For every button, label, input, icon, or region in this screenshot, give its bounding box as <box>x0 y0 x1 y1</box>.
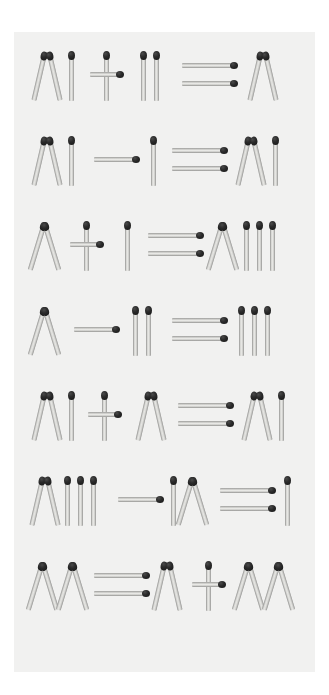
matchstick <box>189 476 210 526</box>
matchstick <box>68 136 75 186</box>
matchstick <box>64 476 71 526</box>
operator-equals <box>148 214 204 280</box>
matchstick <box>172 165 228 172</box>
operator-plus <box>88 384 126 450</box>
matchstick <box>30 51 48 101</box>
matchstick <box>165 561 183 611</box>
operator-equals <box>182 44 238 110</box>
puzzle-row <box>14 299 315 365</box>
matchstick <box>178 402 234 409</box>
matchstick <box>28 476 46 526</box>
matchstick <box>41 221 62 271</box>
matchstick <box>256 221 263 271</box>
puzzle-row <box>14 554 315 620</box>
matchstick <box>172 317 228 324</box>
matchstick <box>94 590 150 597</box>
numeral-XIII <box>212 214 292 280</box>
puzzle-row <box>14 214 315 280</box>
matchstick <box>74 326 120 333</box>
matchstick <box>275 561 296 611</box>
matchstick <box>90 71 124 78</box>
matchstick <box>145 306 152 356</box>
matchstick <box>261 51 279 101</box>
operator-plus <box>192 554 230 620</box>
numeral-VI <box>36 384 88 450</box>
matchstick <box>140 51 147 101</box>
matchstick <box>234 136 252 186</box>
matchstick <box>219 221 240 271</box>
matchstick <box>172 335 228 342</box>
matchstick <box>284 476 291 526</box>
numeral-II <box>140 44 170 110</box>
matchstick <box>88 411 122 418</box>
matchstick <box>269 221 276 271</box>
matchstick <box>172 147 228 154</box>
matchstick <box>192 581 226 588</box>
matchstick <box>94 572 150 579</box>
matchstick <box>45 391 63 441</box>
matchstick <box>178 420 234 427</box>
puzzle-row <box>14 469 315 535</box>
matchstick <box>148 232 204 239</box>
operator-minus <box>94 129 140 195</box>
matchstick <box>182 62 238 69</box>
matchstick <box>70 241 104 248</box>
numeral-X <box>34 214 66 280</box>
matchstick <box>264 306 271 356</box>
numeral-VI <box>36 44 88 110</box>
numeral-V <box>252 44 276 110</box>
matchstick <box>251 306 258 356</box>
matchstick <box>30 391 48 441</box>
numeral-X <box>34 299 66 365</box>
numeral-II <box>132 299 162 365</box>
operator-equals <box>178 384 234 450</box>
matchstick <box>68 391 75 441</box>
matchstick <box>148 250 204 257</box>
matchstick <box>243 221 250 271</box>
operator-plus <box>70 214 108 280</box>
operator-minus <box>118 469 164 535</box>
matchstick <box>150 561 168 611</box>
matchstick <box>94 156 140 163</box>
matchstick <box>220 505 276 512</box>
numeral-VI <box>240 129 292 195</box>
numeral-V <box>156 554 180 620</box>
matchstick <box>278 391 285 441</box>
numeral-VI <box>36 129 88 195</box>
matchstick <box>90 476 97 526</box>
matchstick <box>45 136 63 186</box>
matchstick <box>124 221 131 271</box>
puzzle-row <box>14 129 315 195</box>
numeral-I <box>150 129 164 195</box>
operator-plus <box>90 44 128 110</box>
matchstick <box>77 476 84 526</box>
puzzle-row <box>14 44 315 110</box>
matchstick <box>255 391 273 441</box>
operator-equals <box>172 299 228 365</box>
numeral-III <box>238 299 282 365</box>
puzzle-paper-panel <box>14 32 315 672</box>
matchstick <box>41 306 62 356</box>
matchstick <box>132 306 139 356</box>
operator-equals <box>94 554 150 620</box>
matchstick <box>68 51 75 101</box>
matchstick <box>182 80 238 87</box>
matchstick <box>30 136 48 186</box>
operator-equals <box>220 469 276 535</box>
matchstick <box>149 391 167 441</box>
numeral-I <box>284 469 298 535</box>
matchstick <box>150 136 157 186</box>
operator-equals <box>172 129 228 195</box>
matchstick <box>45 51 63 101</box>
numeral-VIII <box>34 469 112 535</box>
numeral-I <box>124 214 138 280</box>
matchstick <box>153 51 160 101</box>
screenshot-root <box>0 0 329 695</box>
numeral-XX <box>32 554 94 620</box>
puzzle-row <box>14 384 315 450</box>
matchstick <box>240 391 258 441</box>
matchstick <box>246 51 264 101</box>
matchstick <box>134 391 152 441</box>
matchstick <box>118 496 164 503</box>
matchstick <box>238 306 245 356</box>
